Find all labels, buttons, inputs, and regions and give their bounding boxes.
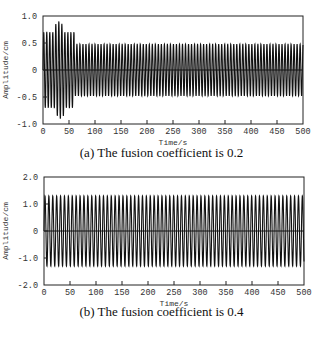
x-tick-label: 400 <box>244 288 259 298</box>
x-tick-label: 250 <box>166 288 181 298</box>
x-tick-label: 450 <box>270 288 285 298</box>
y-tick-label: -1.0 <box>18 254 38 264</box>
x-tick-label: 150 <box>114 288 129 298</box>
x-tick-label: 500 <box>296 288 311 298</box>
chart-panel-b: 050100150200250300350400450500-2.0-1.001… <box>0 0 323 339</box>
x-tick-label: 300 <box>192 288 207 298</box>
y-tick-label: 2.0 <box>23 173 38 183</box>
y-tick-label: 0 <box>33 227 38 237</box>
chart-b-plot: 050100150200250300350400450500-2.0-1.001… <box>0 0 323 339</box>
caption-b: (b) The fusion coefficient is 0.4 <box>0 304 323 320</box>
x-tick-label: 350 <box>218 288 233 298</box>
y-tick-label: 1.0 <box>23 200 38 210</box>
x-tick-label: 0 <box>41 288 46 298</box>
y-tick-label: -2.0 <box>18 281 38 291</box>
x-tick-label: 100 <box>88 288 103 298</box>
x-tick-label: 200 <box>140 288 155 298</box>
y-axis-label: Amplitude/cm <box>1 202 10 260</box>
x-tick-label: 50 <box>65 288 75 298</box>
